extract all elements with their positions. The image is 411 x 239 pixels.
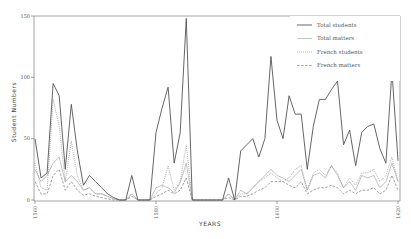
y-tick-label: 0 [27,197,30,203]
x-axis-title: YEARS [198,220,221,227]
y-tick-label: 150 [20,13,30,19]
legend-label: Total students [317,22,357,28]
x-tick-label: 1600 [274,206,280,219]
series-line-french-matters [35,169,398,200]
y-axis-title: Student Numbers [10,82,17,142]
x-tick-label: 1560 [32,206,38,219]
x-tick-label: 1580 [153,206,159,219]
x-ticks: 1560158016001620 [32,201,401,219]
legend-label: Total matters [317,35,354,41]
y-tick-label: 100 [20,74,30,80]
x-tick-label: 1620 [395,206,401,219]
y-ticks: 050100150 [20,13,34,203]
legend-label: French students [317,49,363,55]
legend: Total studentsTotal mattersFrench studen… [290,16,400,81]
legend-label: French matters [317,62,360,68]
line-chart: 050100150 1560158016001620 Total student… [0,0,411,239]
series-line-french-students [35,99,398,200]
y-tick-label: 50 [24,135,30,141]
